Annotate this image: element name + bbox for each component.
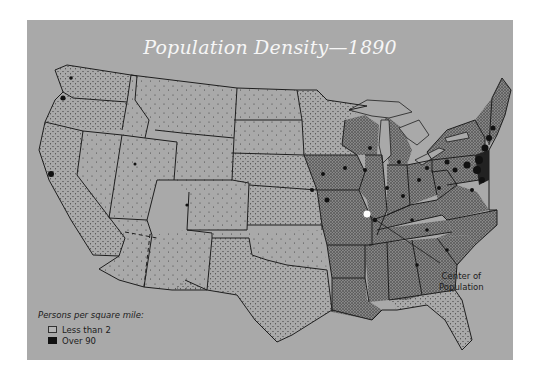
center-of-population-marker [364,211,371,218]
state-montana [135,76,237,138]
legend-heading: Persons per square mile: [38,310,144,320]
land [39,65,511,350]
callout-line-1: Center of [439,271,484,282]
center-of-population-label: Center of Population [439,271,484,293]
map-panel: Population Density—1890 [27,20,513,360]
state-mississippi [365,242,389,302]
state-new-mexico [144,230,212,290]
state-wyoming [174,133,234,180]
us-map [27,20,513,360]
legend-swatch-dark [48,337,57,344]
legend-swatch-light [48,326,57,333]
state-north-dakota [234,88,302,120]
legend-label: Over 90 [62,336,96,346]
legend-label: Less than 2 [62,325,111,335]
state-colorado [174,180,249,230]
legend-item-over-90: Over 90 [48,335,144,346]
callout-line-2: Population [439,282,484,293]
state-south-dakota [232,120,304,155]
state-florida [389,290,472,350]
lake-superior [349,100,412,118]
legend: Persons per square mile: Less than 2 Ove… [38,310,144,346]
legend-item-less-than-2: Less than 2 [48,324,144,335]
state-arkansas [327,245,369,278]
